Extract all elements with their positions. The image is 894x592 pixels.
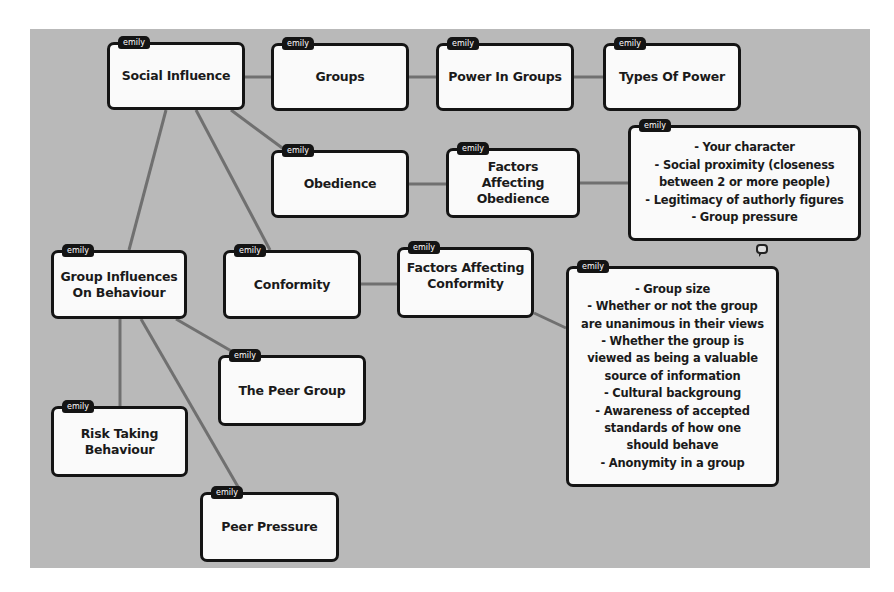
author-tag: emily [614, 37, 646, 50]
node-group-influences-on-behaviour[interactable]: emily Group Influences On Behaviour [51, 250, 187, 319]
node-label: Factors Affecting Obedience [455, 159, 571, 207]
node-label: Obedience [304, 176, 377, 192]
node-label: - Your character - Social proximity (clo… [645, 139, 843, 226]
author-tag: emily [282, 144, 314, 157]
link-group-influences-peer-group [176, 319, 233, 352]
author-tag: emily [457, 142, 489, 155]
node-label: Peer Pressure [221, 519, 317, 535]
link-social-influence-obedience [231, 110, 285, 150]
node-label: - Group size - Whether or not the group … [581, 281, 764, 472]
author-tag: emily [408, 241, 440, 254]
node-factors-affecting-obedience[interactable]: emily Factors Affecting Obedience [446, 148, 580, 218]
node-conformity-factors-list[interactable]: emily - Group size - Whether or not the … [566, 266, 779, 487]
node-peer-pressure[interactable]: emily Peer Pressure [200, 492, 339, 562]
node-types-of-power[interactable]: emily Types Of Power [603, 43, 741, 111]
author-tag: emily [447, 37, 479, 50]
node-social-influence[interactable]: emily Social Influence [107, 42, 245, 110]
node-label: Conformity [254, 277, 330, 293]
node-label: Risk Taking Behaviour [81, 426, 159, 458]
node-label: Group Influences On Behaviour [61, 269, 178, 301]
author-tag: emily [229, 349, 261, 362]
author-tag: emily [62, 244, 94, 257]
node-label: Groups [315, 69, 364, 85]
node-obedience-factors-list[interactable]: emily - Your character - Social proximit… [628, 125, 861, 241]
node-label: Types Of Power [619, 69, 725, 85]
node-label: The Peer Group [239, 383, 346, 399]
author-tag: emily [62, 400, 94, 413]
author-tag: emily [577, 260, 609, 273]
author-tag: emily [639, 119, 671, 132]
node-obedience[interactable]: emily Obedience [271, 150, 409, 218]
node-label: Social Influence [122, 68, 231, 84]
author-tag: emily [282, 37, 314, 50]
author-tag: emily [118, 36, 150, 49]
node-the-peer-group[interactable]: emily The Peer Group [218, 355, 366, 426]
node-groups[interactable]: emily Groups [271, 43, 409, 111]
node-conformity[interactable]: emily Conformity [223, 250, 361, 319]
node-power-in-groups[interactable]: emily Power In Groups [436, 43, 574, 111]
node-risk-taking-behaviour[interactable]: emily Risk Taking Behaviour [51, 406, 188, 477]
author-tag: emily [211, 486, 243, 499]
node-label: Factors Affecting Conformity [407, 260, 524, 292]
node-label: Power In Groups [448, 69, 562, 85]
speech-bubble-icon[interactable] [756, 244, 768, 254]
node-factors-affecting-conformity[interactable]: emily Factors Affecting Conformity [397, 247, 534, 318]
link-social-influence-group-influences [129, 110, 166, 250]
link-factors-conformity-list [534, 313, 566, 328]
author-tag: emily [234, 244, 266, 257]
